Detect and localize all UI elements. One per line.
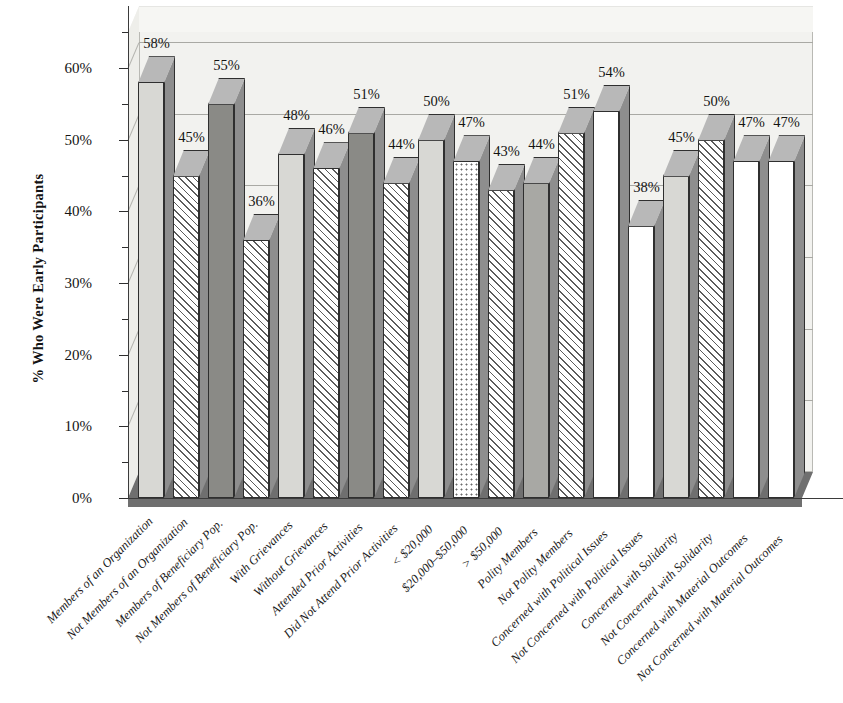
bar-front-face (453, 161, 479, 498)
bar (523, 157, 549, 498)
bar-front-face (558, 133, 584, 499)
bar (418, 114, 444, 498)
bar-value-label: 44% (388, 136, 415, 153)
bar (138, 56, 164, 498)
bar (278, 128, 304, 498)
y-tick-0 (119, 498, 128, 499)
bar-front-face (278, 154, 304, 498)
bar (453, 135, 479, 498)
bar-value-label: 50% (703, 93, 730, 110)
bar-value-label: 55% (213, 57, 240, 74)
y-tick-label: 20% (34, 346, 92, 363)
y-axis-line (128, 6, 129, 498)
bar (768, 135, 794, 498)
y-tick-label: 30% (34, 275, 92, 292)
bar-front-face (768, 161, 794, 498)
bar (628, 200, 654, 498)
y-tick-45 (122, 176, 128, 177)
bar-value-label: 44% (528, 136, 555, 153)
bar-value-label: 51% (353, 86, 380, 103)
bar-value-label: 45% (178, 129, 205, 146)
bar-value-label: 47% (458, 114, 485, 131)
bar (208, 78, 234, 498)
y-tick-5 (122, 462, 128, 463)
bar-front-face (488, 190, 514, 498)
y-tick-55 (122, 104, 128, 105)
bar-front-face (243, 240, 269, 498)
gridline-60 (139, 42, 813, 43)
bar (383, 157, 409, 498)
bar-value-label: 36% (248, 193, 275, 210)
bar-front-face (138, 82, 164, 498)
bar-value-label: 47% (773, 114, 800, 131)
bar-front-face (208, 104, 234, 498)
bar-front-face (173, 176, 199, 499)
bar (488, 164, 514, 498)
y-tick-label: 10% (34, 418, 92, 435)
y-tick-label: 40% (34, 203, 92, 220)
y-tick-label: 0% (34, 490, 92, 507)
bar-value-label: 45% (668, 129, 695, 146)
bar-value-label: 47% (738, 114, 765, 131)
bar-front-face (418, 140, 444, 498)
y-tick-label: 50% (34, 131, 92, 148)
bar-value-label: 54% (598, 64, 625, 81)
bar-front-face (348, 133, 374, 499)
y-tick-15 (122, 391, 128, 392)
bar-front-face (313, 168, 339, 498)
x-axis-line (128, 498, 843, 499)
y-tick-20 (119, 355, 128, 356)
y-tick-40 (119, 211, 128, 212)
y-tick-65 (122, 32, 128, 33)
bar (173, 150, 199, 499)
bar (733, 135, 759, 498)
y-tick-60 (119, 68, 128, 69)
bar (243, 214, 269, 498)
bar-front-face (698, 140, 724, 498)
y-tick-30 (119, 283, 128, 284)
bar-side-face (794, 135, 805, 498)
bar-front-face (593, 111, 619, 498)
bar-front-face (383, 183, 409, 498)
y-tick-label: 60% (34, 60, 92, 77)
plot-top-face (128, 6, 813, 32)
bar (663, 150, 689, 499)
bar (313, 142, 339, 498)
y-tick-50 (119, 140, 128, 141)
bar-value-label: 38% (633, 179, 660, 196)
bar-front-face (733, 161, 759, 498)
bar-value-label: 46% (318, 121, 345, 138)
y-tick-10 (119, 426, 128, 427)
bar (348, 107, 374, 499)
bar-front-face (663, 176, 689, 499)
bar-value-label: 58% (143, 35, 170, 52)
bar-value-label: 48% (283, 107, 310, 124)
bar-value-label: 51% (563, 86, 590, 103)
y-tick-35 (122, 247, 128, 248)
bar (558, 107, 584, 499)
bar-value-label: 43% (493, 143, 520, 160)
bar (698, 114, 724, 498)
y-tick-25 (122, 319, 128, 320)
bar-value-label: 50% (423, 93, 450, 110)
bar-front-face (523, 183, 549, 498)
bar-front-face (628, 226, 654, 498)
bar (593, 85, 619, 498)
